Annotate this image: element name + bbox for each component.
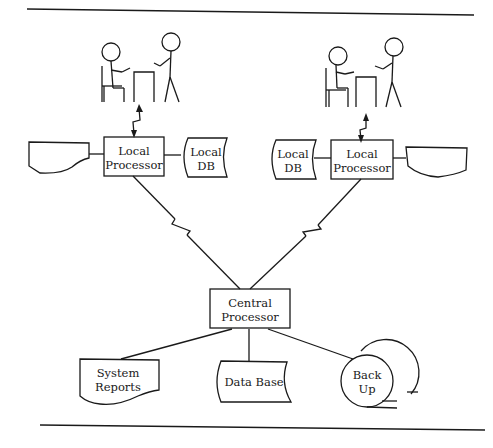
- right-users-icon: [326, 38, 403, 107]
- left-local-db-label-1: Local: [190, 145, 222, 159]
- left-central-link: [133, 176, 240, 289]
- left-users-icon: [102, 33, 180, 102]
- top-rule: [27, 9, 474, 15]
- data-base: Data Base: [217, 361, 291, 402]
- right-terminal-icon: [406, 147, 467, 177]
- system-reports: System Reports: [80, 359, 159, 404]
- network-diagram: Local Processor Local DB Local DB Local …: [0, 0, 493, 448]
- left-terminal-icon: [29, 142, 89, 173]
- left-local-db-label-2: DB: [197, 159, 215, 173]
- left-local-processor-label-2: Processor: [105, 158, 163, 172]
- back-up-label-2: Up: [358, 382, 375, 396]
- right-local-processor: Local Processor: [331, 140, 393, 179]
- bottom-rule: [40, 425, 485, 430]
- right-local-db: Local DB: [272, 140, 316, 179]
- right-local-db-label-2: DB: [284, 161, 302, 175]
- back-up: Back Up: [341, 340, 419, 408]
- back-up-label-1: Back: [353, 368, 383, 382]
- right-local-db-label-1: Local: [277, 147, 309, 161]
- central-processor-label-1: Central: [228, 296, 272, 310]
- left-local-db: Local DB: [184, 138, 227, 177]
- right-central-link: [250, 179, 361, 289]
- system-reports-label-2: Reports: [95, 380, 141, 394]
- left-local-processor-label-1: Local: [118, 144, 150, 158]
- central-processor: Central Processor: [210, 289, 290, 328]
- system-reports-label-1: System: [97, 366, 140, 380]
- central-processor-label-2: Processor: [221, 310, 279, 324]
- left-local-processor: Local Processor: [104, 137, 164, 176]
- data-base-label: Data Base: [224, 375, 283, 389]
- right-user-link-icon: [358, 113, 369, 143]
- right-local-processor-label-1: Local: [346, 147, 378, 161]
- right-local-processor-label-2: Processor: [333, 161, 391, 175]
- left-user-link-icon: [131, 104, 143, 138]
